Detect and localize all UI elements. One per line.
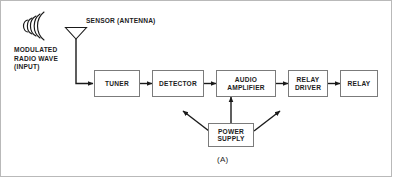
wire-psu-relaydrv: [254, 111, 280, 131]
block-detector[interactable]: DETECTOR: [152, 70, 204, 97]
figure-caption: (A): [217, 155, 229, 164]
block-relay[interactable]: RELAY: [340, 70, 378, 97]
block-relay-driver-label: RELAY DRIVER: [295, 76, 321, 90]
block-relay-driver[interactable]: RELAY DRIVER: [288, 70, 328, 97]
radio-wave-icon: [24, 12, 45, 40]
block-tuner-label: TUNER: [105, 80, 129, 87]
figure-canvas: SENSOR (ANTENNA) MODULATED RADIO WAVE (I…: [0, 0, 393, 178]
block-detector-label: DETECTOR: [159, 80, 197, 87]
block-audio-amplifier[interactable]: AUDIO AMPLIFIER: [216, 70, 276, 97]
block-power-supply-label: POWER SUPPLY: [217, 128, 244, 142]
input-label: MODULATED RADIO WAVE (INPUT): [14, 46, 58, 72]
wire-psu-detector: [183, 111, 209, 131]
block-audio-amplifier-label: AUDIO AMPLIFIER: [227, 76, 265, 90]
antenna-icon: [66, 28, 94, 84]
antenna-label: SENSOR (ANTENNA): [86, 17, 156, 26]
block-relay-label: RELAY: [348, 80, 371, 87]
block-power-supply[interactable]: POWER SUPPLY: [208, 123, 254, 147]
block-tuner[interactable]: TUNER: [94, 70, 140, 97]
